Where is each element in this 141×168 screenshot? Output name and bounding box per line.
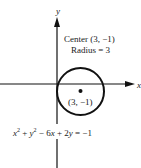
center-point [79,89,83,93]
y-axis-arrow-icon [54,17,60,27]
center-point-label: (3, −1) [67,97,94,107]
eq-term2: + 2 [55,128,69,138]
radius-annotation: Radius = 3 [71,45,110,55]
eq-rhs: = −1 [73,128,92,138]
circle-equation: x2 + y2 − 6x + 2y = −1 [13,124,92,139]
y-axis-label: y [56,6,60,16]
x-axis-arrow-icon [125,81,135,87]
coordinate-plane [0,0,141,168]
x-axis-label: x [137,80,141,90]
center-annotation: Center (3, −1) [64,34,115,44]
eq-plus: + [20,128,30,138]
eq-term1: − 6 [37,128,51,138]
